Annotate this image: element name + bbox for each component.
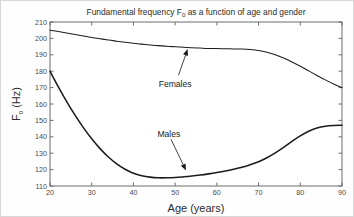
y-tick-label: 140 xyxy=(35,132,47,141)
y-tick-label: 180 xyxy=(35,67,47,76)
annotation-label-males: Males xyxy=(157,129,180,139)
chart-title: Fundamental frequency F0 as a function o… xyxy=(87,7,306,18)
x-tick-label: 90 xyxy=(338,188,346,197)
y-tick-label: 190 xyxy=(35,50,47,59)
x-tick-label: 30 xyxy=(88,188,96,197)
x-axis-title: Age (years) xyxy=(168,202,225,214)
y-tick-label: 130 xyxy=(35,149,47,158)
chart-canvas: 2030405060708090110120130140150160170180… xyxy=(1,1,354,217)
annotation-label-females: Females xyxy=(159,79,192,89)
x-tick-label: 70 xyxy=(255,188,263,197)
x-tick-label: 50 xyxy=(171,188,179,197)
x-tick-label: 20 xyxy=(46,188,54,197)
y-tick-label: 110 xyxy=(36,182,47,191)
y-tick-label: 150 xyxy=(35,116,47,125)
y-tick-label: 120 xyxy=(35,165,47,174)
plot-background xyxy=(50,22,342,186)
y-tick-label: 200 xyxy=(35,34,47,43)
figure-container: 2030405060708090110120130140150160170180… xyxy=(0,0,354,217)
y-tick-label: 170 xyxy=(35,83,47,92)
y-tick-label: 210 xyxy=(35,18,47,27)
y-tick-label: 160 xyxy=(35,100,47,109)
x-tick-label: 60 xyxy=(213,188,221,197)
y-axis-title: F0 (Hz) xyxy=(10,87,24,121)
x-tick-label: 80 xyxy=(296,188,304,197)
x-tick-label: 40 xyxy=(129,188,137,197)
